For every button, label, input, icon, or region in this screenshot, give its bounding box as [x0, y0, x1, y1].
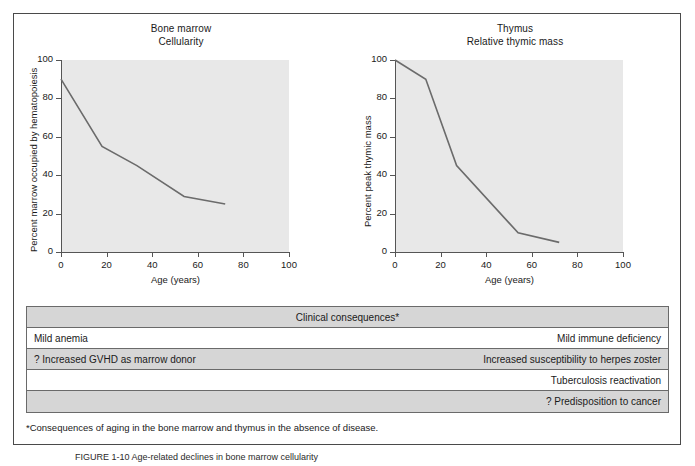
table-cell-thymus: Increased susceptibility to herpes zoste… — [348, 354, 669, 365]
y-tick-label: 60 — [376, 130, 387, 141]
table-footnote: *Consequences of aging in the bone marro… — [26, 422, 378, 433]
y-tick: 100 — [390, 60, 395, 61]
x-tick — [532, 253, 533, 257]
chart-subtitle-left: Cellularity — [14, 35, 348, 48]
x-tick — [289, 253, 290, 257]
y-tick-label: 40 — [42, 168, 53, 179]
x-tick-label: 100 — [615, 259, 631, 270]
y-tick-label: 80 — [376, 91, 387, 102]
y-tick-label: 40 — [376, 168, 387, 179]
chart-title-left: Bone marrow Cellularity — [14, 22, 348, 48]
chart-title-main-right: Thymus — [497, 23, 533, 34]
table-row: ? Predisposition to cancer — [27, 391, 668, 412]
table-header-row: Clinical consequences* — [27, 307, 668, 328]
table-row: Tuberculosis reactivation — [27, 370, 668, 391]
x-tick-label: 0 — [392, 259, 397, 270]
x-tick-label: 40 — [481, 259, 492, 270]
y-tick: 60 — [56, 137, 61, 138]
x-tick-label: 0 — [58, 259, 63, 270]
x-tick-label: 60 — [193, 259, 204, 270]
x-tick — [577, 253, 578, 257]
y-tick-label: 100 — [37, 53, 53, 64]
y-tick-label: 100 — [371, 53, 387, 64]
table-header-label: Clinical consequences* — [296, 312, 399, 323]
series-line-left — [61, 60, 289, 252]
y-tick: 80 — [390, 98, 395, 99]
y-axis-title-left: Percent marrow occupied by hematopoiesis — [28, 68, 39, 252]
y-tick: 20 — [390, 214, 395, 215]
figure-frame: Bone marrow Cellularity Percent marrow o… — [13, 13, 681, 445]
x-tick-label: 80 — [238, 259, 249, 270]
table-row: ? Increased GVHD as marrow donorIncrease… — [27, 349, 668, 370]
table-cell-thymus: Tuberculosis reactivation — [348, 375, 669, 386]
x-tick — [198, 253, 199, 257]
chart-thymus: Thymus Relative thymic mass Percent peak… — [348, 14, 682, 299]
y-tick: 40 — [56, 175, 61, 176]
x-tick — [486, 253, 487, 257]
x-tick — [243, 253, 244, 257]
y-tick-label: 0 — [382, 245, 387, 256]
table-cell-thymus: Mild immune deficiency — [348, 333, 669, 344]
x-tick-label: 80 — [572, 259, 583, 270]
x-tick — [441, 253, 442, 257]
table-row: Mild anemiaMild immune deficiency — [27, 328, 668, 349]
y-axis-title-right: Percent peak thymic mass — [362, 116, 373, 227]
y-tick-label: 20 — [42, 207, 53, 218]
x-axis-title-right: Age (years) — [395, 274, 624, 285]
chart-subtitle-right: Relative thymic mass — [348, 35, 682, 48]
y-tick: 20 — [56, 214, 61, 215]
x-tick-label: 20 — [435, 259, 446, 270]
chart-bone-marrow: Bone marrow Cellularity Percent marrow o… — [14, 14, 348, 299]
x-axis-title-left: Age (years) — [61, 274, 290, 285]
y-tick: 100 — [56, 60, 61, 61]
plot-wrap-right: Percent peak thymic mass Age (years) 020… — [348, 52, 682, 299]
figure-caption: FIGURE 1-10 Age-related declines in bone… — [75, 452, 635, 462]
charts-row: Bone marrow Cellularity Percent marrow o… — [14, 14, 680, 299]
x-tick-label: 20 — [101, 259, 112, 270]
x-tick-label: 40 — [147, 259, 158, 270]
y-tick-label: 0 — [48, 245, 53, 256]
y-tick-label: 60 — [42, 130, 53, 141]
y-tick-label: 20 — [376, 207, 387, 218]
x-tick — [61, 253, 62, 257]
x-tick-label: 100 — [281, 259, 297, 270]
x-axis-line-right — [395, 252, 624, 253]
series-line-right — [395, 60, 623, 252]
x-tick — [623, 253, 624, 257]
y-tick: 40 — [390, 175, 395, 176]
clinical-consequences-table: Clinical consequences* Mild anemiaMild i… — [26, 306, 669, 413]
x-tick — [152, 253, 153, 257]
y-tick-label: 80 — [42, 91, 53, 102]
x-tick — [395, 253, 396, 257]
plot-wrap-left: Percent marrow occupied by hematopoiesis… — [14, 52, 348, 299]
y-tick: 60 — [390, 137, 395, 138]
table-cell-bone-marrow: Mild anemia — [27, 333, 348, 344]
chart-title-right: Thymus Relative thymic mass — [348, 22, 682, 48]
table-cell-bone-marrow: ? Increased GVHD as marrow donor — [27, 354, 348, 365]
x-tick — [107, 253, 108, 257]
y-tick: 80 — [56, 98, 61, 99]
x-tick-label: 60 — [527, 259, 538, 270]
table-cell-thymus: ? Predisposition to cancer — [348, 396, 669, 407]
x-axis-line-left — [61, 252, 290, 253]
chart-title-main-left: Bone marrow — [151, 23, 212, 34]
